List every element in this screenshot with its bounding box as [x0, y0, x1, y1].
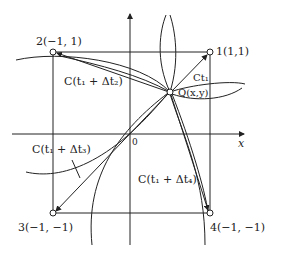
- point-3-label: 3(−1, −1): [18, 222, 73, 233]
- point-3-marker: [50, 210, 56, 216]
- point-1-marker: [207, 49, 213, 55]
- point-1-label: 1(1,1): [216, 46, 249, 57]
- point-4-label: 4(−1, −1): [210, 222, 265, 233]
- curve-c3: [26, 93, 168, 174]
- curve-c2-label: C(t₁ + Δt₂): [64, 76, 123, 87]
- origin-label: 0: [132, 138, 138, 147]
- q-point-label: Q(x,y): [178, 88, 208, 98]
- point-4-marker: [207, 210, 213, 216]
- x-axis-label: x: [238, 138, 244, 149]
- curve-c4-label: C(t₁ + Δt₄): [138, 174, 197, 185]
- curve-upper-petal-right: [170, 15, 176, 92]
- curve-c4: [170, 94, 205, 245]
- curve-c3-label: C(t₁ + Δt₃): [32, 144, 91, 155]
- point-2-label: 2(−1, 1): [36, 36, 82, 47]
- curve-ct1-label: Ct₁: [193, 73, 209, 83]
- curve-upper-petal-left: [160, 15, 170, 92]
- point-q-marker: [167, 89, 173, 95]
- point-2-marker: [50, 49, 56, 55]
